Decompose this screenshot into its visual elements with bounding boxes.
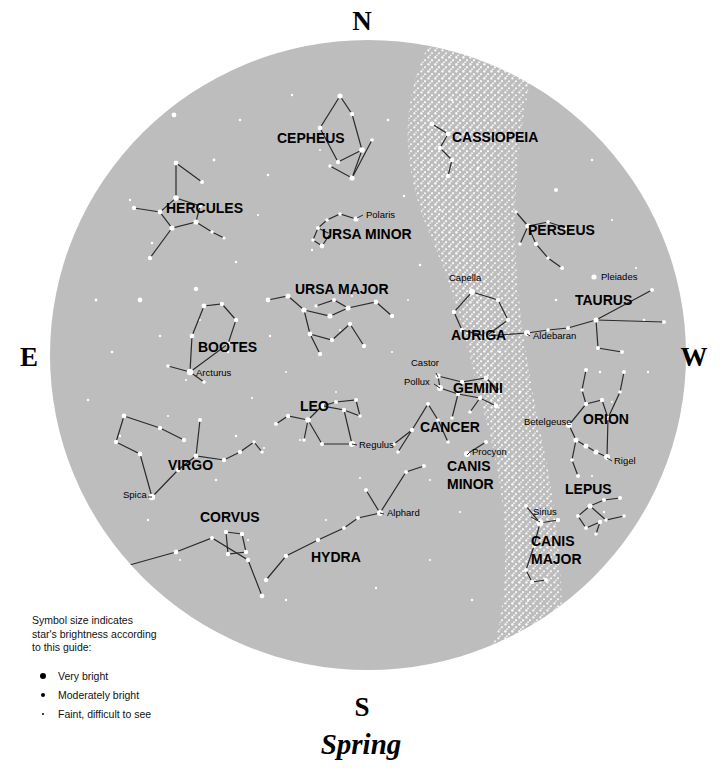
cardinal-west: W <box>678 344 710 371</box>
star-label-capella: Capella <box>449 272 482 283</box>
season-title: Spring <box>281 730 441 759</box>
star-label-betelgeuse: Betelgeuse <box>524 416 572 427</box>
legend-item-very-bright: Very bright <box>32 667 252 686</box>
label-bootes: BOOTES <box>198 339 257 355</box>
label-leo: LEO <box>300 398 329 414</box>
label-auriga: AURIGA <box>451 327 506 343</box>
legend-item-faint: Faint, difficult to see <box>32 705 252 724</box>
cardinal-south: S <box>345 694 379 721</box>
moderately-bright-dot-icon <box>32 693 54 698</box>
label-cepheus: CEPHEUS <box>277 130 345 146</box>
label-hercules: HERCULES <box>166 200 243 216</box>
star-label-regulus: Regulus <box>359 439 394 450</box>
cardinal-north: N <box>345 8 379 35</box>
label-ursa-minor: URSA MINOR <box>322 226 412 242</box>
sky-disc <box>50 40 686 670</box>
label-taurus: TAURUS <box>575 292 632 308</box>
legend-label-faint: Faint, difficult to see <box>54 708 151 720</box>
star-label-rigel: Rigel <box>614 455 636 466</box>
legend-label-very-bright: Very bright <box>54 670 108 682</box>
label-canis-major: CANIS <box>531 533 575 549</box>
label-cancer: CANCER <box>420 419 480 435</box>
very-bright-dot-icon <box>32 673 54 679</box>
legend-caption: Symbol size indicates star's brightness … <box>32 614 252 655</box>
legend-label-moderately-bright: Moderately bright <box>54 689 139 701</box>
star-label-pleiades: Pleiades <box>601 271 638 282</box>
label-virgo: VIRGO <box>168 457 213 473</box>
label-canis-major-line2: MAJOR <box>531 551 582 567</box>
label-canis-minor-line2: MINOR <box>447 476 494 492</box>
star-label-pollux: Pollux <box>404 376 430 387</box>
star-label-sirius: Sirius <box>533 506 557 517</box>
star-label-alphard: Alphard <box>387 507 420 518</box>
star-chart: CEPHEUS CASSIOPEIA HERCULES URSA MINOR P… <box>0 0 722 781</box>
brightness-legend: Symbol size indicates star's brightness … <box>32 614 252 724</box>
label-cassiopeia: CASSIOPEIA <box>452 129 538 145</box>
legend-item-moderately-bright: Moderately bright <box>32 686 252 705</box>
star-label-procyon: Procyon <box>472 446 507 457</box>
label-canis-minor: CANIS <box>447 458 491 474</box>
label-lepus: LEPUS <box>565 481 612 497</box>
label-gemini: GEMINI <box>453 380 503 396</box>
star-label-spica: Spica <box>123 489 147 500</box>
label-orion: ORION <box>583 411 629 427</box>
label-ursa-major: URSA MAJOR <box>295 281 389 297</box>
star-label-aldebaran: Aldebaran <box>533 330 576 341</box>
label-perseus: PERSEUS <box>528 222 595 238</box>
star-label-castor: Castor <box>411 357 439 368</box>
star-label-arcturus: Arcturus <box>196 367 232 378</box>
star-label-polaris: Polaris <box>366 209 395 220</box>
label-corvus: CORVUS <box>200 509 260 525</box>
faint-dot-icon <box>32 713 54 716</box>
cardinal-east: E <box>14 344 44 371</box>
label-hydra: HYDRA <box>311 549 361 565</box>
